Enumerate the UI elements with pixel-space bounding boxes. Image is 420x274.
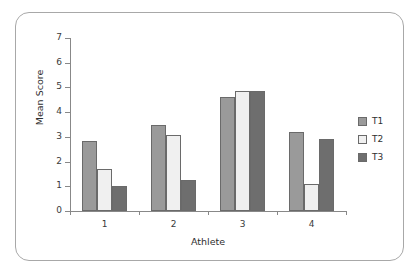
y-tick-label: 3 (42, 132, 62, 141)
x-tick-mark (346, 211, 347, 215)
y-tick-mark (65, 162, 70, 163)
x-tick-label: 4 (297, 219, 327, 229)
x-tick-mark (139, 211, 140, 215)
bar-T3-cat2 (181, 180, 196, 211)
legend-swatch-T1 (358, 117, 367, 126)
legend-item-T1[interactable]: T1 (358, 112, 402, 130)
x-tick-label: 3 (228, 219, 258, 229)
y-axis-label: Mean Score (34, 58, 45, 138)
y-tick-mark (65, 186, 70, 187)
bar-T2-cat4 (304, 184, 319, 211)
y-tick-label: 1 (42, 181, 62, 190)
bar-T2-cat3 (235, 91, 250, 211)
x-tick-label: 2 (159, 219, 189, 229)
x-axis-label: Athlete (70, 236, 346, 247)
bar-T3-cat1 (112, 186, 127, 211)
x-tick-mark (70, 211, 71, 215)
y-tick-label: 4 (42, 107, 62, 116)
y-tick-label: 7 (42, 33, 62, 42)
y-tick-mark (65, 112, 70, 113)
y-tick-mark (65, 38, 70, 39)
legend-label-T2: T2 (372, 135, 383, 144)
y-tick-label: 5 (42, 82, 62, 91)
bar-T1-cat1 (82, 141, 97, 211)
bar-T3-cat4 (319, 139, 334, 211)
x-tick-mark (208, 211, 209, 215)
y-axis-line (70, 38, 71, 212)
y-tick-mark (65, 63, 70, 64)
legend-item-T2[interactable]: T2 (358, 130, 402, 148)
legend-swatch-T3 (358, 153, 367, 162)
legend-swatch-T2 (358, 135, 367, 144)
chart-figure: 01234567 1234 Athlete Mean Score T1T2T3 (0, 0, 420, 274)
y-tick-label: 6 (42, 58, 62, 67)
x-tick-mark (277, 211, 278, 215)
legend-item-T3[interactable]: T3 (358, 148, 402, 166)
y-tick-label: 0 (42, 206, 62, 215)
bar-T2-cat1 (97, 169, 112, 211)
bar-T2-cat2 (166, 135, 181, 211)
chart-legend: T1T2T3 (358, 112, 402, 166)
bar-T3-cat3 (250, 91, 265, 211)
chart-frame-border (15, 12, 404, 261)
bar-T1-cat2 (151, 125, 166, 212)
y-tick-mark (65, 137, 70, 138)
y-tick-label: 2 (42, 157, 62, 166)
legend-label-T3: T3 (372, 153, 383, 162)
bar-T1-cat3 (220, 97, 235, 211)
legend-label-T1: T1 (372, 117, 383, 126)
x-tick-label: 1 (90, 219, 120, 229)
bar-T1-cat4 (289, 132, 304, 211)
y-tick-mark (65, 87, 70, 88)
